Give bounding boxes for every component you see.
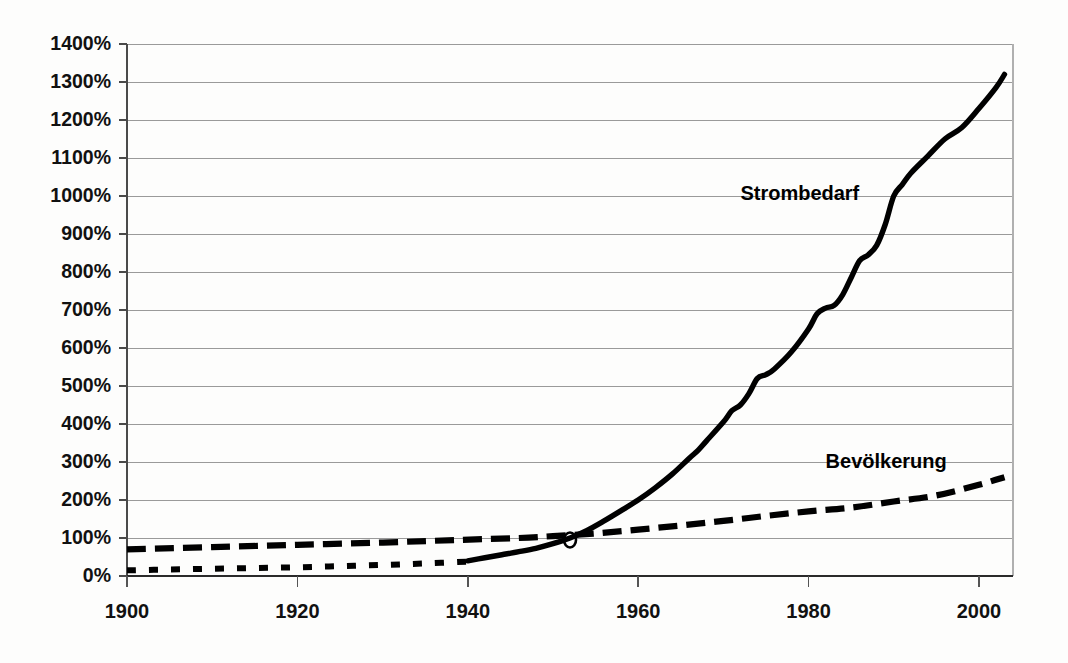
y-tick-label: 100% bbox=[61, 526, 111, 548]
y-axis-tick-labels: 1400%1300%1200%1100%1000%900%800%700%600… bbox=[50, 32, 111, 586]
x-axis-tick-labels: 190019201940196019802000 bbox=[105, 600, 1001, 622]
series-line-vergleichsreihe bbox=[127, 562, 468, 571]
y-tick-label: 1400% bbox=[50, 32, 111, 54]
y-tick-label: 1100% bbox=[51, 146, 111, 168]
series-annotations: StrombedarfBevölkerung bbox=[740, 182, 946, 472]
chart-container: 1400%1300%1200%1100%1000%900%800%700%600… bbox=[0, 0, 1068, 663]
y-tick-label: 300% bbox=[61, 450, 111, 472]
x-tick-label: 1900 bbox=[105, 600, 150, 622]
y-tick-label: 500% bbox=[61, 374, 111, 396]
y-tick-marks bbox=[119, 44, 127, 576]
y-tick-label: 800% bbox=[61, 260, 111, 282]
x-tick-label: 2000 bbox=[957, 600, 1002, 622]
y-tick-label: 1300% bbox=[50, 70, 111, 92]
x-tick-label: 1940 bbox=[446, 600, 491, 622]
y-tick-label: 200% bbox=[61, 488, 111, 510]
y-tick-label: 0% bbox=[83, 564, 111, 586]
series-line-strombedarf bbox=[468, 74, 1005, 560]
y-tick-label: 900% bbox=[61, 222, 111, 244]
y-tick-label: 1200% bbox=[50, 108, 111, 130]
y-tick-label: 1000% bbox=[50, 184, 111, 206]
x-tick-label: 1980 bbox=[786, 600, 831, 622]
y-tick-label: 700% bbox=[61, 298, 111, 320]
x-tick-marks bbox=[127, 576, 979, 587]
x-tick-label: 1920 bbox=[275, 600, 320, 622]
data-series-group bbox=[127, 74, 1004, 570]
series-annotation-strombedarf: Strombedarf bbox=[740, 182, 859, 204]
series-annotation-bev-lkerung: Bevölkerung bbox=[826, 450, 947, 472]
y-tick-label: 600% bbox=[61, 336, 111, 358]
line-chart: 1400%1300%1200%1100%1000%900%800%700%600… bbox=[0, 0, 1068, 663]
x-tick-label: 1960 bbox=[616, 600, 661, 622]
y-tick-label: 400% bbox=[61, 412, 111, 434]
